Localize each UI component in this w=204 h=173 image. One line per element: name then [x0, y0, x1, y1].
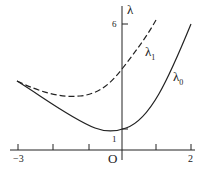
- y-axis-label: λ: [127, 3, 133, 16]
- y-tick-label-6: 6: [112, 20, 117, 29]
- series-lambda0: [17, 24, 191, 131]
- lambda0-subscript: 0: [179, 78, 183, 87]
- x-tick-label-min: −3: [13, 154, 24, 164]
- y-tick-label-1: 1: [112, 135, 117, 144]
- origin-label: O: [108, 152, 117, 165]
- legend-lambda0: λ0: [173, 70, 183, 87]
- series-lambda1: [17, 20, 156, 96]
- x-ticks: [18, 144, 191, 150]
- lambda1-subscript: 1: [151, 53, 155, 62]
- x-tick-label-max: 2: [188, 154, 193, 164]
- legend-lambda1: λ1: [145, 45, 155, 62]
